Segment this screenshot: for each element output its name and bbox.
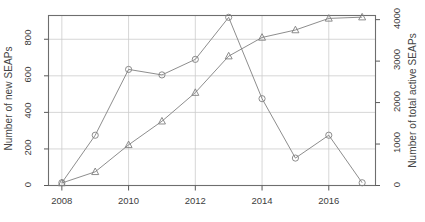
y-axis-left-tick-label: 800 <box>13 32 43 43</box>
series-line <box>62 17 362 183</box>
x-axis-tick-label: 2010 <box>109 195 149 206</box>
y-axis-right-tick-label: 2000 <box>382 96 412 107</box>
y-axis-right-tick-label-text: 3000 <box>391 49 402 70</box>
y-axis-right-tick-label: 1000 <box>382 137 412 148</box>
x-axis-tick-label: 2016 <box>309 195 349 206</box>
chart-figure: Number of new SEAPs Number of total acti… <box>0 0 425 222</box>
y-axis-right-tick-label-text: 1000 <box>391 132 402 153</box>
series-line <box>62 17 362 182</box>
plot-area <box>0 0 425 222</box>
x-axis-tick-label: 2014 <box>242 195 282 206</box>
y-axis-right-tick-label-text: 0 <box>391 181 402 186</box>
data-point-triangle <box>359 13 366 20</box>
y-axis-left-tick-label: 0 <box>13 179 43 190</box>
y-axis-right-tick-label: 3000 <box>382 54 412 65</box>
y-axis-left-tick-label-text: 400 <box>22 103 33 119</box>
y-axis-left-tick-label: 400 <box>13 105 43 116</box>
gridlines <box>49 16 376 186</box>
y-axis-left-title-text: Number of new SEAPs <box>3 46 14 150</box>
plot-frame <box>49 16 376 186</box>
y-axis-left-title: Number of new SEAPs <box>0 0 16 196</box>
y-axis-right-tick-label-text: 4000 <box>391 8 402 29</box>
series-new-seaps <box>59 14 366 186</box>
y-axis-left-tick-label-text: 600 <box>22 66 33 82</box>
y-axis-left-tick-label-text: 800 <box>22 30 33 46</box>
x-axis-tick-label: 2012 <box>175 195 215 206</box>
tick-marks <box>44 20 380 191</box>
y-axis-right-tick-label: 0 <box>382 179 412 190</box>
y-axis-left-tick-label: 200 <box>13 142 43 153</box>
y-axis-left-tick-label: 600 <box>13 69 43 80</box>
y-axis-right-tick-label: 4000 <box>382 13 412 24</box>
data-point-triangle <box>225 52 232 59</box>
y-axis-left-tick-label-text: 0 <box>22 181 33 186</box>
x-axis-tick-label: 2008 <box>42 195 82 206</box>
y-axis-right-tick-label-text: 2000 <box>391 90 402 111</box>
y-axis-left-tick-label-text: 200 <box>22 140 33 156</box>
